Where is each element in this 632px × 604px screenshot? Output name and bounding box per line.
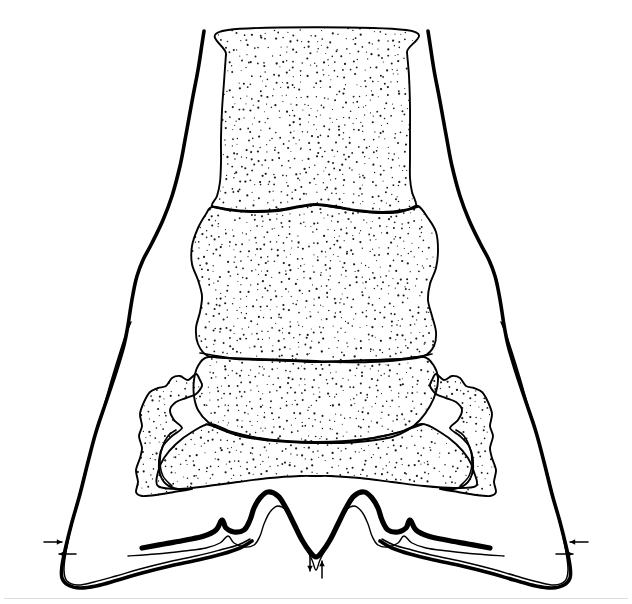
figure-root: This figure contains no visible text, ax… [0, 0, 632, 604]
figure-background [0, 0, 632, 604]
anatomical-line-drawing [0, 0, 632, 604]
